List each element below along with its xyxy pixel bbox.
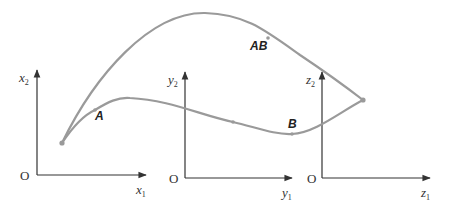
curve-a-b [62,98,363,143]
point-mid-lower [231,120,235,124]
curve-label-b: B [288,118,297,130]
z2-label: z2 [306,73,315,89]
origin-x-label: O [20,169,29,182]
axes-z [322,72,430,178]
start-point [59,140,64,145]
x2-label: x2 [19,71,29,87]
y2-label: y2 [168,73,178,89]
axes-y [185,72,292,178]
curve-label-ab: AB [250,40,267,52]
x1-label: x1 [136,183,146,199]
axes-x [37,70,146,175]
origin-y-label: O [169,172,178,185]
y1-label: y1 [282,186,292,202]
trajectory-diagram [0,0,449,204]
curve-label-a: A [95,110,104,122]
end-point [360,97,365,102]
z1-label: z1 [421,186,430,202]
curve-ab [62,13,363,143]
point-b [290,132,294,136]
origin-z-label: O [307,172,316,185]
